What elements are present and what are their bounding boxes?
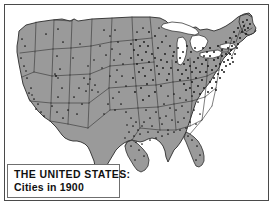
map-figure: THE UNITED STATES: Cities in 1900 <box>0 0 273 207</box>
map-title-secondary: Cities in 1900 <box>14 181 119 194</box>
map-title-box: THE UNITED STATES: Cities in 1900 <box>7 164 120 198</box>
map-title-primary: THE UNITED STATES: <box>14 168 119 181</box>
florida-peninsula <box>184 132 204 167</box>
